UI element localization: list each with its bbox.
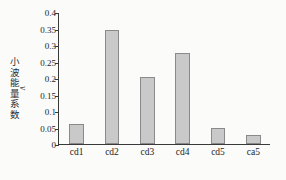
x-axis-tick-labels: cd1cd2cd3cd4cd5ca5: [59, 148, 270, 164]
bar-cd4: [175, 53, 190, 144]
y-tick-mark: [55, 79, 59, 80]
bar-ca5: [246, 135, 261, 144]
x-tick-label-cd4: cd4: [176, 148, 190, 158]
plot-area: [58, 13, 270, 145]
y-tick-mark: [55, 112, 59, 113]
x-tick-label-cd5: cd5: [211, 148, 225, 158]
y-tick-label: 0.15: [40, 91, 56, 100]
x-tick-label-ca5: ca5: [247, 148, 260, 158]
y-axis-label-text: 小波能量系数: [8, 57, 18, 120]
y-tick-mark: [55, 46, 59, 47]
bar-chart-figure: 小波能量系数 v 00.050.10.150.20.250.30.350.4 c…: [0, 0, 286, 180]
y-tick-mark: [55, 63, 59, 64]
y-tick-mark: [55, 129, 59, 130]
x-tick-label-cd1: cd1: [70, 148, 84, 158]
x-tick-label-cd3: cd3: [140, 148, 154, 158]
y-tick-label: 0.35: [40, 25, 56, 34]
bar-series: [59, 13, 270, 144]
bar-cd3: [140, 77, 155, 144]
bar-cd5: [211, 128, 226, 144]
y-tick-mark: [55, 13, 59, 14]
bar-cd1: [69, 124, 84, 144]
y-tick-mark: [55, 30, 59, 31]
y-tick-label: 0.25: [40, 58, 56, 67]
y-axis-tick-labels: 00.050.10.150.20.250.30.350.4: [26, 13, 56, 145]
y-tick-label: 0.05: [40, 124, 56, 133]
y-tick-mark: [55, 145, 59, 146]
x-tick-label-cd2: cd2: [105, 148, 119, 158]
x-axis-line: [58, 144, 270, 145]
bar-cd2: [105, 30, 120, 144]
y-tick-mark: [55, 96, 59, 97]
y-axis-label: 小波能量系数 v: [10, 38, 26, 138]
